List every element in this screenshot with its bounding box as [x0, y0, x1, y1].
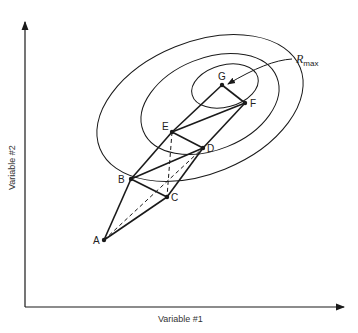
simplex-edges	[104, 85, 245, 240]
y-axis-label: Variable #2	[7, 145, 17, 190]
label-g: G	[218, 71, 226, 82]
x-axis-label: Variable #1	[158, 314, 203, 324]
vertex-b	[129, 177, 133, 181]
reflection-lines	[104, 132, 203, 240]
contour-outer	[75, 6, 325, 209]
vertex-e	[170, 130, 174, 134]
label-a: A	[93, 235, 100, 246]
label-c: C	[171, 192, 178, 203]
label-d: D	[207, 143, 214, 154]
vertex-d	[201, 146, 205, 150]
response-contours	[75, 6, 325, 209]
label-e: E	[162, 121, 169, 132]
vertex-g	[220, 83, 224, 87]
rmax-label: Rmax	[295, 52, 318, 68]
rmax-pointer	[228, 59, 292, 84]
vertex-f	[243, 101, 247, 105]
simplex-diagram: A B C D E F G Rmax Variable #1 Variable …	[0, 0, 358, 333]
label-f: F	[250, 98, 256, 109]
vertex-c	[165, 195, 169, 199]
label-b: B	[118, 174, 125, 185]
vertices	[102, 83, 247, 242]
vertex-labels: A B C D E F G	[93, 71, 256, 246]
vertex-a	[102, 238, 106, 242]
